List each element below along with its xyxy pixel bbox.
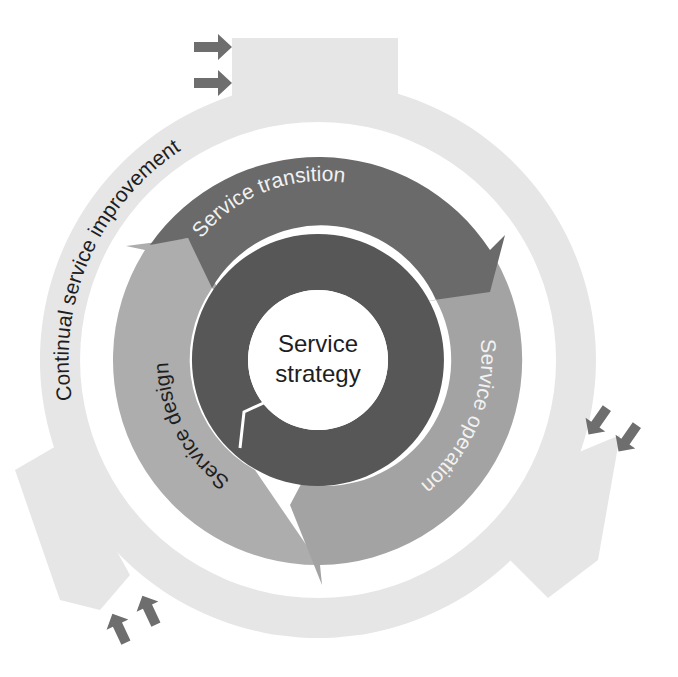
center-label-line2: strategy	[275, 360, 360, 387]
input-arrows-bottom-left	[102, 591, 167, 648]
arrow-right-icon	[194, 34, 232, 60]
center-label-line1: Service	[278, 330, 358, 357]
arrow-up-icon	[132, 591, 167, 630]
input-arrows-top	[194, 34, 232, 96]
itil-service-lifecycle-diagram: Service transition Service operation Ser…	[0, 0, 678, 677]
arrow-right-icon	[194, 70, 232, 96]
arrow-up-icon	[102, 609, 137, 648]
